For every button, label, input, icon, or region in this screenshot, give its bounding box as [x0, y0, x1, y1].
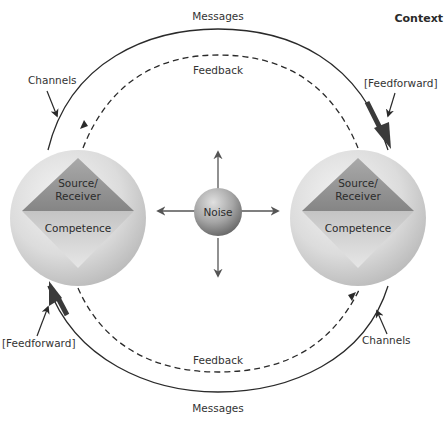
source-label-right: Source/: [338, 177, 378, 189]
competence-label-left: Competence: [45, 222, 112, 234]
feedforward-label-bottom-left: [Feedforward]: [2, 337, 76, 349]
feedback-label-top: Feedback: [193, 64, 244, 76]
receiver-label-right: Receiver: [335, 190, 381, 202]
feedforward-arrow-bottom-left-icon: [49, 281, 67, 315]
communication-model-diagram: Context Source/ Receiver Competence Sour…: [0, 0, 446, 423]
receiver-label-left: Receiver: [55, 190, 101, 202]
feedback-arrowhead-top-icon: [80, 120, 88, 129]
channels-label-bottom-right: Channels: [362, 334, 411, 346]
feedforward-pointer-bottom-left: [37, 307, 48, 336]
channels-pointer-top-left: [47, 91, 57, 116]
messages-arc-top: [48, 29, 388, 150]
context-title: Context: [394, 12, 443, 25]
channels-pointer-bottom-right: [377, 311, 387, 334]
noise-label: Noise: [203, 206, 232, 218]
competence-label-right: Competence: [325, 222, 392, 234]
channels-label-top-left: Channels: [28, 74, 77, 86]
feedforward-pointer-top-right: [388, 93, 395, 116]
feedback-arrowhead-bottom-icon: [348, 292, 356, 301]
source-receiver-right: Source/ Receiver Competence: [290, 150, 426, 286]
messages-arc-bottom: [48, 286, 388, 392]
source-receiver-left: Source/ Receiver Competence: [10, 150, 146, 286]
source-label-left: Source/: [58, 177, 98, 189]
messages-label-top: Messages: [192, 10, 244, 22]
messages-label-bottom: Messages: [192, 402, 244, 414]
feedback-label-bottom: Feedback: [193, 354, 244, 366]
feedforward-arrow-top-right-icon: [367, 102, 391, 149]
feedforward-label-top-right: [Feedforward]: [364, 77, 438, 89]
